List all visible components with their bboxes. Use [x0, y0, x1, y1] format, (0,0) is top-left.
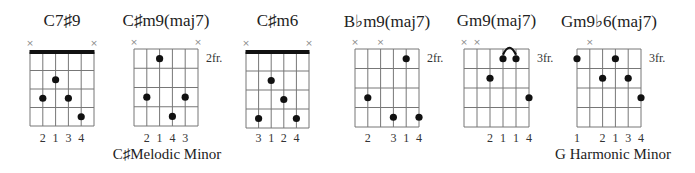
finger-dot: [599, 75, 606, 82]
scale-label-melodic-minor: C♯Melodic Minor: [113, 146, 222, 163]
finger-number: 4: [638, 131, 644, 146]
finger-dot: [612, 55, 619, 62]
fret-position-label: 3fr.: [649, 51, 665, 66]
finger-dot: [625, 75, 632, 82]
finger-dot: [637, 94, 644, 101]
finger-number: 3: [625, 131, 631, 146]
finger-number: 1: [574, 131, 580, 146]
scale-label-harmonic-minor: G Harmonic Minor: [555, 146, 671, 163]
finger-number: 2: [600, 131, 606, 146]
finger-number: 1: [612, 131, 618, 146]
muted-string-icon: ×: [586, 37, 594, 47]
finger-dot: [573, 55, 580, 62]
